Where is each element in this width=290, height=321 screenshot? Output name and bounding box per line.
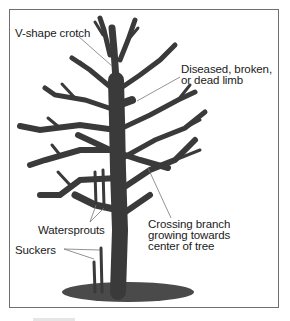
label-watersprouts: Watersprouts [38, 225, 105, 236]
label-diseased-limb-line-2: or dead limb [181, 75, 272, 86]
label-suckers: Suckers [15, 245, 56, 256]
ground-shadow [62, 282, 194, 302]
label-crossing-branch: Crossing branch growing towards center o… [148, 219, 230, 252]
label-v-shape-crotch: V-shape crotch [15, 28, 90, 39]
tree-illustration [0, 0, 290, 321]
label-diseased-limb: Diseased, broken, or dead limb [181, 64, 272, 86]
label-crossing-branch-line-3: center of tree [148, 241, 230, 252]
